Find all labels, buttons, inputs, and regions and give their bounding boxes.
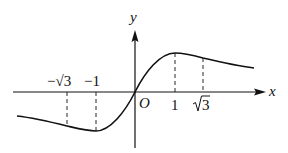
origin-label: O bbox=[139, 95, 150, 111]
tick-label-sqrt3-radicand: 3 bbox=[202, 97, 210, 113]
y-axis-label: y bbox=[128, 9, 137, 25]
function-graph: y x O −√3 −1 1 3 bbox=[0, 0, 288, 153]
tick-label-sqrt3: 3 bbox=[193, 96, 210, 113]
tick-label-neg-one: −1 bbox=[84, 73, 100, 89]
x-axis-label: x bbox=[268, 83, 276, 99]
tick-label-neg-sqrt3: −√3 bbox=[47, 73, 71, 89]
tick-label-one: 1 bbox=[171, 97, 179, 113]
